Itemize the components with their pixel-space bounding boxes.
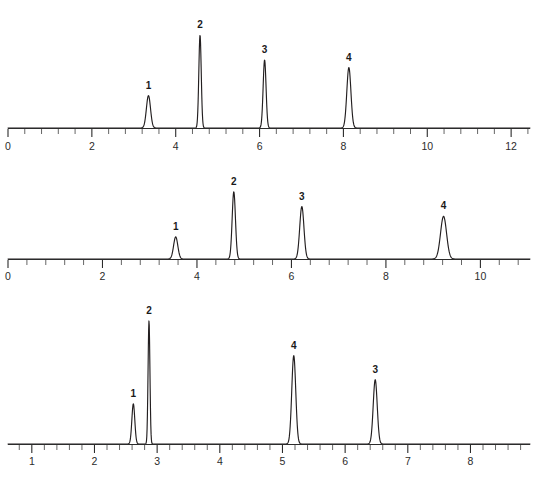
- chromatogram-panel-bottom: 123456781243: [0, 292, 538, 477]
- x-axis-tick-label: 4: [217, 455, 223, 467]
- chromatogram-trace: [8, 192, 530, 259]
- x-axis-tick-label: 10: [421, 140, 433, 152]
- chromatogram-panel-middle: 02468101234: [0, 162, 538, 290]
- x-axis-tick-label: 6: [289, 270, 295, 282]
- chromatogram-plot: 0246810121234: [0, 0, 538, 160]
- peak-label: 1: [173, 221, 179, 232]
- x-axis-tick-label: 8: [340, 140, 346, 152]
- chromatogram-trace: [8, 321, 530, 444]
- chromatogram-figure: 0246810121234 02468101234 123456781243: [0, 0, 538, 477]
- peak-label: 4: [441, 200, 447, 211]
- peak-label: 3: [262, 44, 268, 55]
- x-axis-tick-label: 6: [342, 455, 348, 467]
- x-axis-tick-label: 2: [89, 140, 95, 152]
- peak-label: 3: [372, 364, 378, 375]
- peak-label: 4: [291, 340, 297, 351]
- x-axis-tick-label: 4: [173, 140, 179, 152]
- peak-label: 2: [197, 19, 203, 30]
- x-axis-tick-label: 2: [100, 270, 106, 282]
- peak-label: 1: [131, 388, 137, 399]
- x-axis-tick-label: 7: [405, 455, 411, 467]
- x-axis-tick-label: 8: [468, 455, 474, 467]
- chromatogram-plot: 02468101234: [0, 162, 538, 290]
- x-axis-tick-label: 1: [29, 455, 35, 467]
- x-axis-tick-label: 10: [475, 270, 487, 282]
- x-axis-tick-label: 8: [383, 270, 389, 282]
- x-axis-tick-label: 6: [257, 140, 263, 152]
- peak-label: 2: [146, 305, 152, 316]
- x-axis-tick-label: 2: [92, 455, 98, 467]
- chromatogram-panel-top: 0246810121234: [0, 0, 538, 160]
- x-axis-tick-label: 4: [194, 270, 200, 282]
- x-axis-tick-label: 5: [280, 455, 286, 467]
- x-axis-tick-label: 12: [505, 140, 517, 152]
- x-axis-tick-label: 3: [154, 455, 160, 467]
- peak-label: 2: [231, 176, 237, 187]
- x-axis-tick-label: 0: [5, 270, 11, 282]
- peak-label: 4: [346, 52, 352, 63]
- x-axis-tick-label: 0: [5, 140, 11, 152]
- chromatogram-trace: [8, 36, 530, 128]
- peak-label: 3: [299, 191, 305, 202]
- peak-label: 1: [146, 80, 152, 91]
- chromatogram-plot: 123456781243: [0, 292, 538, 477]
